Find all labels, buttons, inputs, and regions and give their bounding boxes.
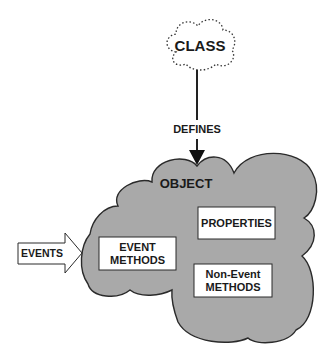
events-label: EVENTS: [21, 247, 63, 259]
event-methods-line2: METHODS: [110, 254, 165, 266]
non-event-methods-line2: METHODS: [206, 281, 261, 293]
class-cloud: CLASS: [167, 20, 235, 70]
class-object-diagram: CLASS DEFINES OBJECT PROPERTIES EVENT ME…: [0, 0, 326, 360]
defines-label: DEFINES: [173, 123, 221, 135]
event-methods-line1: EVENT: [119, 241, 156, 253]
properties-label: PROPERTIES: [201, 217, 272, 229]
non-event-methods-box: Non-Event METHODS: [194, 264, 272, 297]
class-label: CLASS: [175, 37, 226, 54]
event-methods-box: EVENT METHODS: [99, 237, 176, 270]
defines-connector: DEFINES: [173, 70, 221, 165]
properties-box: PROPERTIES: [198, 207, 275, 239]
object-label: OBJECT: [160, 176, 213, 191]
events-arrow: EVENTS: [18, 233, 82, 273]
non-event-methods-line1: Non-Event: [206, 268, 261, 280]
